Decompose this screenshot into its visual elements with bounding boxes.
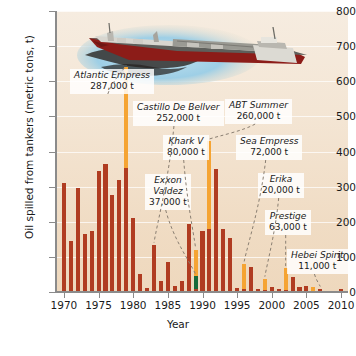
x-tick bbox=[237, 293, 238, 298]
annotation-name: Sea Empress bbox=[240, 136, 298, 147]
bar-segment-green bbox=[194, 276, 198, 289]
bar-segment-base bbox=[187, 224, 191, 292]
annotation-amount: 72,000 t bbox=[240, 147, 298, 158]
y-tick-label: 200 bbox=[308, 217, 356, 228]
y-axis-title: Oil spilled from tankers (metric tons, t… bbox=[23, 4, 35, 270]
x-tick bbox=[133, 293, 134, 298]
bar-segment-major bbox=[194, 250, 198, 276]
bar-segment-base bbox=[214, 169, 218, 292]
annotation-name: Prestige bbox=[269, 211, 307, 222]
bar-1994 bbox=[228, 238, 232, 292]
annotation-amount: 63,000 t bbox=[269, 222, 307, 233]
bar-segment-major bbox=[242, 264, 246, 289]
bar-segment-base bbox=[69, 241, 73, 292]
plot-area: Atlantic Empress287,000 tCastillo De Bel… bbox=[57, 11, 348, 292]
bar-1990 bbox=[200, 231, 204, 292]
x-tick bbox=[341, 293, 342, 298]
annotation-callout: ABT Summer260,000 t bbox=[225, 99, 292, 124]
bar-1981 bbox=[138, 274, 142, 292]
bar-segment-base bbox=[110, 195, 114, 292]
bar-segment-base bbox=[76, 188, 80, 292]
annotation-callout: Khark V80,000 t bbox=[163, 135, 209, 160]
y-tick-label: 0 bbox=[308, 287, 356, 298]
bar-1973 bbox=[83, 234, 87, 292]
bar-segment-base bbox=[207, 229, 211, 292]
bar-1971 bbox=[69, 241, 73, 292]
bar-segment-base bbox=[62, 183, 66, 292]
bar-1979 bbox=[124, 67, 128, 292]
annotation-name: Khark V bbox=[167, 136, 205, 147]
y-tick bbox=[49, 11, 56, 12]
y-tick-label: 500 bbox=[308, 111, 356, 122]
bar-1996 bbox=[242, 264, 246, 292]
annotation-name: Atlantic Empress bbox=[74, 70, 150, 81]
annotation-callout: Sea Empress72,000 t bbox=[236, 135, 302, 160]
bar-1993 bbox=[221, 229, 225, 292]
annotation-callout: Prestige63,000 t bbox=[265, 210, 311, 235]
bar-segment-base bbox=[97, 171, 101, 292]
x-tick bbox=[306, 293, 307, 298]
bar-segment-base bbox=[166, 262, 170, 292]
annotation-callout: ExxonValdez37,000 t bbox=[145, 174, 191, 210]
y-tick bbox=[49, 292, 56, 293]
bar-1999 bbox=[263, 279, 267, 292]
bar-segment-base bbox=[131, 218, 135, 292]
bar-1991 bbox=[207, 141, 211, 292]
x-tick bbox=[168, 293, 169, 298]
annotation-amount: 37,000 t bbox=[149, 197, 187, 208]
y-tick bbox=[49, 116, 56, 117]
annotation-amount: 20,000 t bbox=[262, 185, 300, 196]
annotation-name: Castillo De Bellver bbox=[137, 102, 220, 113]
y-tick-label: 400 bbox=[308, 147, 356, 158]
bar-1997 bbox=[249, 267, 253, 292]
bar-segment-base bbox=[90, 231, 94, 292]
y-tick-label: 300 bbox=[308, 182, 356, 193]
bar-1980 bbox=[131, 218, 135, 292]
bar-1970 bbox=[62, 183, 66, 292]
bar-1975 bbox=[97, 171, 101, 292]
y-tick-label: 800 bbox=[308, 6, 356, 17]
bar-segment-base bbox=[221, 229, 225, 292]
y-tick bbox=[49, 46, 56, 47]
bar-1976 bbox=[103, 164, 107, 292]
annotation-name: ABT Summer bbox=[229, 100, 288, 111]
oil-spill-chart-figure: Atlantic Empress287,000 tCastillo De Bel… bbox=[0, 0, 356, 356]
bar-segment-base bbox=[291, 277, 295, 292]
y-tick bbox=[49, 187, 56, 188]
bar-segment-base bbox=[83, 234, 87, 292]
annotation-amount: 80,000 t bbox=[167, 147, 205, 158]
bar-segment-base bbox=[228, 238, 232, 292]
bar-1978 bbox=[117, 180, 121, 292]
x-axis-title: Year bbox=[0, 318, 356, 330]
bar-1972 bbox=[76, 188, 80, 292]
y-tick bbox=[49, 257, 56, 258]
bar-1974 bbox=[90, 231, 94, 292]
annotation-amount: 252,000 t bbox=[137, 113, 220, 124]
y-tick bbox=[49, 152, 56, 153]
annotation-callout: Atlantic Empress287,000 t bbox=[70, 69, 154, 94]
y-tick-label: 100 bbox=[308, 252, 356, 263]
annotation-callout: Castillo De Bellver252,000 t bbox=[133, 101, 224, 126]
annotation-amount: 260,000 t bbox=[229, 111, 288, 122]
bar-segment-base bbox=[152, 245, 156, 292]
annotation-amount: 287,000 t bbox=[74, 81, 150, 92]
bar-1977 bbox=[110, 195, 114, 292]
x-tick bbox=[99, 293, 100, 298]
x-tick bbox=[203, 293, 204, 298]
annotation-name: Erika bbox=[262, 174, 300, 185]
bar-1988 bbox=[187, 224, 191, 292]
bar-segment-base bbox=[124, 168, 128, 292]
y-tick-label: 600 bbox=[308, 76, 356, 87]
bar-1992 bbox=[214, 169, 218, 292]
bar-segment-base bbox=[249, 267, 253, 292]
bar-1989 bbox=[194, 250, 198, 292]
y-tick-label: 700 bbox=[308, 41, 356, 52]
bar-segment-base bbox=[138, 274, 142, 292]
bar-segment-base bbox=[200, 231, 204, 292]
bar-segment-major bbox=[263, 279, 267, 291]
bar-segment-base bbox=[117, 180, 121, 292]
x-tick bbox=[64, 293, 65, 298]
bar-2003 bbox=[291, 277, 295, 292]
x-tick-label: 2010 bbox=[321, 300, 356, 311]
bar-1985 bbox=[166, 262, 170, 292]
